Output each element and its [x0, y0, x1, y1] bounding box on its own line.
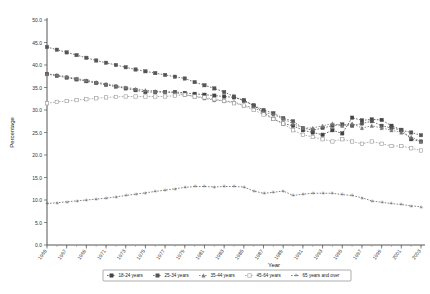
- chart-container: 0.05.010.015.020.025.030.035.040.045.050…: [0, 0, 430, 294]
- data-point: [95, 97, 98, 100]
- x-tick-label: 1969: [76, 248, 87, 261]
- data-point: [222, 99, 225, 102]
- data-point: ✳: [163, 188, 167, 193]
- y-tick-label: 30.0: [32, 107, 42, 113]
- data-point: [144, 95, 147, 98]
- data-point: ✳: [232, 184, 236, 189]
- x-tick-label: 2003: [411, 248, 422, 261]
- data-point: ✳: [193, 184, 197, 189]
- data-point: ✳: [271, 190, 275, 195]
- x-tick-label: 1967: [56, 248, 67, 261]
- data-point: [282, 122, 285, 125]
- x-tick-label: 1987: [253, 248, 264, 261]
- data-point: [154, 71, 157, 74]
- data-point: ✳: [45, 201, 49, 206]
- legend-marker: [110, 274, 113, 277]
- data-point: ✳: [124, 193, 128, 198]
- x-tick-label: 2001: [391, 248, 402, 261]
- data-point: ✳: [114, 195, 118, 200]
- data-point: [144, 70, 147, 73]
- x-tick-label: 1979: [174, 248, 185, 261]
- data-point: [419, 134, 422, 137]
- legend-marker: [156, 274, 159, 277]
- data-point: [65, 99, 68, 102]
- data-point: [360, 119, 363, 122]
- data-point: ✳: [55, 201, 59, 206]
- data-point: ✳: [143, 191, 147, 196]
- legend-marker: [248, 274, 251, 277]
- y-tick-label: 5.0: [35, 220, 42, 226]
- data-point: [222, 90, 225, 93]
- data-point: [321, 133, 324, 136]
- data-point: ✳: [340, 192, 344, 197]
- x-tick-label: 1991: [292, 248, 303, 261]
- data-point: [183, 77, 186, 80]
- data-point: ✳: [84, 198, 88, 203]
- data-point: [341, 138, 344, 141]
- y-tick-label: 10.0: [32, 197, 42, 203]
- data-point: ✳: [134, 192, 138, 197]
- data-point: [409, 131, 412, 134]
- data-point: ✳: [94, 197, 98, 202]
- data-point: ✳: [65, 200, 69, 205]
- y-tick-label: 15.0: [32, 175, 42, 181]
- legend-marker: ✳: [294, 273, 298, 278]
- data-point: [341, 132, 344, 135]
- data-point: [419, 149, 422, 152]
- y-tick-label: 0.0: [35, 242, 42, 248]
- data-point: [85, 98, 88, 101]
- data-point: ✳: [104, 196, 108, 201]
- data-point: [95, 59, 98, 62]
- data-point: ✳: [153, 189, 157, 194]
- data-point: ✳: [291, 193, 295, 198]
- data-point: [134, 95, 137, 98]
- data-point: [409, 135, 412, 138]
- y-tick-label: 25.0: [32, 130, 42, 136]
- data-point: [203, 96, 206, 99]
- data-point: ✳: [301, 192, 305, 197]
- series-2: [45, 45, 422, 137]
- data-point: [193, 80, 196, 83]
- data-point: [262, 113, 265, 116]
- data-point: [400, 144, 403, 147]
- line-chart: 0.05.010.015.020.025.030.035.040.045.050…: [0, 0, 430, 294]
- legend-label: 65 years and over: [303, 273, 340, 278]
- data-point: [213, 98, 216, 101]
- series-3: [45, 72, 422, 143]
- data-point: [380, 118, 383, 121]
- data-point: [248, 274, 251, 277]
- x-tick-label: 1981: [194, 248, 205, 261]
- data-point: [124, 66, 127, 69]
- data-point: [370, 120, 373, 123]
- data-point: ✳: [294, 273, 298, 278]
- data-point: [242, 104, 245, 107]
- data-point: ✳: [350, 193, 354, 198]
- data-point: [183, 93, 186, 96]
- data-point: [331, 129, 334, 132]
- data-point: [154, 95, 157, 98]
- legend-label: 45-64 years: [257, 273, 282, 278]
- data-point: [163, 73, 166, 76]
- data-point: ✳: [389, 201, 393, 206]
- data-point: [360, 142, 363, 145]
- data-point: [173, 94, 176, 97]
- data-point: ✳: [212, 185, 216, 190]
- data-point: ✳: [409, 204, 413, 209]
- data-point: [380, 142, 383, 145]
- data-point: [173, 75, 176, 78]
- data-point: [203, 84, 206, 87]
- data-point: [156, 274, 159, 277]
- x-tick-label: 1997: [351, 248, 362, 261]
- y-tick-label: 35.0: [32, 85, 42, 91]
- data-point: ✳: [262, 191, 266, 196]
- data-point: ✳: [242, 185, 246, 190]
- data-point: ✳: [380, 200, 384, 205]
- data-point: ✳: [281, 189, 285, 194]
- data-point: [134, 68, 137, 71]
- x-tick-label: 1977: [155, 248, 166, 261]
- data-point: ✳: [222, 184, 226, 189]
- data-point: ✳: [370, 199, 374, 204]
- x-tick-label: 1995: [332, 248, 343, 261]
- data-point: [321, 138, 324, 141]
- data-point: ✳: [183, 185, 187, 190]
